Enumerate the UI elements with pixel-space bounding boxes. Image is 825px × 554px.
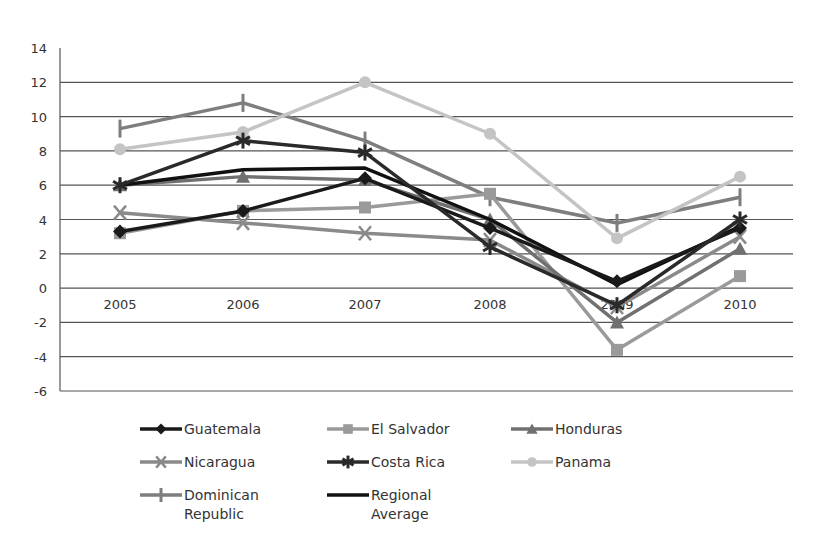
svg-text:-2: -2 <box>34 315 47 330</box>
svg-text:0: 0 <box>39 281 47 296</box>
svg-text:2007: 2007 <box>348 297 381 312</box>
x-marker-icon <box>140 455 182 469</box>
legend-label: Guatemala <box>184 420 261 439</box>
svg-text:14: 14 <box>30 41 47 56</box>
series-dominican-republic <box>120 94 740 232</box>
y-axis-ticks: 14121086420-2-4-6 <box>30 41 47 399</box>
svg-text:2010: 2010 <box>723 297 756 312</box>
svg-text:8: 8 <box>39 144 47 159</box>
triangle-marker-icon <box>511 422 553 436</box>
svg-text:10: 10 <box>30 110 47 125</box>
legend-item-panama: Panama <box>511 453 611 472</box>
svg-text:4: 4 <box>39 213 47 228</box>
svg-text:6: 6 <box>39 178 47 193</box>
legend-item-dominican-republic: Dominican Republic <box>140 486 259 524</box>
legend-item-regional-average: Regional Average <box>327 486 431 524</box>
legend-item-el-salvador: El Salvador <box>327 420 450 439</box>
series-lines <box>113 76 747 356</box>
asterisk-marker-icon <box>327 455 369 469</box>
legend-label: Honduras <box>555 420 622 439</box>
legend-label: Panama <box>555 453 611 472</box>
svg-text:-6: -6 <box>34 384 47 399</box>
line-only-icon <box>327 488 369 502</box>
series-el-salvador <box>114 188 746 356</box>
svg-text:2005: 2005 <box>103 297 136 312</box>
legend-label: Regional Average <box>371 486 431 524</box>
svg-text:2: 2 <box>39 247 47 262</box>
gridlines <box>60 48 793 391</box>
legend-item-nicaragua: Nicaragua <box>140 453 255 472</box>
svg-text:-4: -4 <box>34 350 47 365</box>
series-guatemala <box>113 171 747 288</box>
legend-item-costa-rica: Costa Rica <box>327 453 445 472</box>
svg-text:2006: 2006 <box>226 297 259 312</box>
line-chart: 14121086420-2-4-6 2005200620072008200920… <box>0 0 825 420</box>
diamond-marker-icon <box>140 422 182 436</box>
legend-label: El Salvador <box>371 420 450 439</box>
circle-marker-icon <box>511 455 553 469</box>
legend-item-guatemala: Guatemala <box>140 420 261 439</box>
plus-marker-icon <box>140 488 182 502</box>
legend-label: Nicaragua <box>184 453 255 472</box>
legend-label: Dominican Republic <box>184 486 259 524</box>
svg-text:2008: 2008 <box>473 297 506 312</box>
svg-text:12: 12 <box>30 75 47 90</box>
square-marker-icon <box>327 422 369 436</box>
legend-label: Costa Rica <box>371 453 445 472</box>
legend-item-honduras: Honduras <box>511 420 622 439</box>
